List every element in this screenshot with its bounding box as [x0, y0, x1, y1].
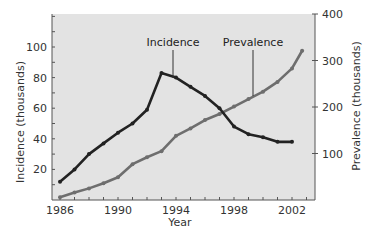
incidence-marker [261, 135, 265, 139]
prevalence-marker [300, 49, 304, 53]
prevalence-marker [73, 191, 77, 195]
incidence-marker [218, 106, 222, 110]
y-left-tick-label: 40 [33, 133, 47, 146]
prevalence-marker [203, 118, 207, 122]
prevalence-marker [87, 186, 91, 190]
prevalence-marker [58, 195, 62, 199]
y-axis-left: 20406080100 [26, 14, 55, 200]
x-tick-label: 1998 [220, 204, 248, 217]
y-axis-right-title: Prevalence (thousands) [350, 41, 363, 171]
x-axis: 19861990199419982002 [46, 197, 315, 217]
incidence-marker [247, 132, 251, 136]
prevalence-marker [247, 97, 251, 101]
incidence-marker [203, 94, 207, 98]
incidence-marker [87, 152, 91, 156]
incidence-marker [116, 131, 120, 135]
prevalence-marker [290, 66, 294, 70]
y-axis-right: 100200300400 [312, 8, 343, 200]
incidence-marker [102, 141, 106, 145]
prevalence-marker [261, 90, 265, 94]
y-right-tick-label: 200 [322, 101, 343, 114]
prevalence-marker [232, 105, 236, 109]
prevalence-annotation: Prevalence [223, 36, 284, 49]
prevalence-marker [116, 175, 120, 179]
incidence-marker [189, 85, 193, 89]
incidence-marker [232, 125, 236, 129]
prevalence-marker [189, 126, 193, 130]
prevalence-marker [102, 181, 106, 185]
incidence-marker [160, 71, 164, 75]
y-right-tick-label: 300 [322, 55, 343, 68]
incidence-annotation: Incidence [147, 36, 200, 49]
incidence-marker [131, 122, 135, 126]
x-axis-title: Year [167, 216, 192, 229]
incidence-marker [73, 167, 77, 171]
prevalence-marker [160, 149, 164, 153]
x-tick-label: 1990 [104, 204, 132, 217]
prevalence-marker [218, 112, 222, 116]
prevalence-marker [131, 162, 135, 166]
y-right-tick-label: 400 [322, 8, 343, 21]
incidence-marker [276, 140, 280, 144]
incidence-marker [174, 76, 178, 80]
prevalence-marker [145, 155, 149, 159]
incidence-marker [58, 180, 62, 184]
incidence-marker [145, 108, 149, 112]
prevalence-marker [276, 80, 280, 84]
y-left-tick-label: 80 [33, 72, 47, 85]
x-tick-label: 1986 [46, 204, 74, 217]
incidence-marker [290, 140, 294, 144]
y-left-tick-label: 100 [26, 41, 47, 54]
y-left-tick-label: 20 [33, 163, 47, 176]
y-left-tick-label: 60 [33, 102, 47, 115]
dual-axis-line-chart: 19861990199419982002 20406080100 1002003… [0, 0, 376, 241]
y-axis-left-title: Incidence (thousands) [14, 61, 27, 183]
prevalence-marker [174, 134, 178, 138]
x-tick-label: 2002 [278, 204, 306, 217]
y-right-tick-label: 100 [322, 148, 343, 161]
